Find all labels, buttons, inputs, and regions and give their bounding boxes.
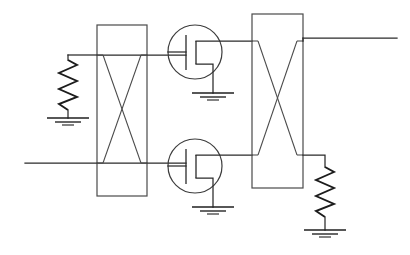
right-ground-icon <box>304 230 346 237</box>
right-resistor-top-lead <box>303 155 325 167</box>
schematic-canvas <box>0 0 410 255</box>
upper-transistor-ground-icon <box>192 93 234 100</box>
left-resistor-zigzag <box>59 60 77 110</box>
left-resistor-branch <box>47 55 89 125</box>
left-ground-icon <box>47 118 89 125</box>
upper-transistor <box>168 25 252 100</box>
circuit-diagram <box>0 0 410 255</box>
lower-transistor <box>168 139 252 214</box>
lower-transistor-ground-icon <box>192 207 234 214</box>
right-resistor-zigzag <box>316 167 334 217</box>
left-crossover-box <box>97 25 147 196</box>
right-box-outline <box>252 14 303 188</box>
right-resistor-branch <box>303 155 346 237</box>
right-crossover-box <box>252 14 303 188</box>
